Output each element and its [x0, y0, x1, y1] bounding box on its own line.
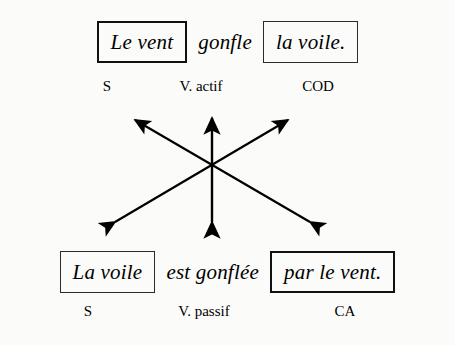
active-object-box: la voile. — [263, 21, 358, 63]
passive-label-row: S V. passif CA — [0, 303, 455, 327]
passive-subject-box: La voile — [60, 251, 156, 293]
arrow-subject-to-agent — [115, 120, 288, 222]
active-passive-diagram: Le vent gonfle la voile. S V. actif COD … — [0, 0, 455, 345]
active-label-row: S V. actif COD — [0, 78, 455, 102]
active-verb-text: gonfle — [187, 21, 263, 63]
passive-subject-label: S — [84, 303, 92, 320]
passive-agent-box: par le vent. — [270, 251, 395, 293]
arrow-cod-to-subject — [135, 120, 310, 222]
passive-agent-label: CA — [335, 303, 356, 320]
active-subject-label: S — [103, 78, 111, 95]
active-sentence-row: Le vent gonfle la voile. — [0, 20, 455, 64]
active-subject-box: Le vent — [97, 21, 188, 63]
passive-sentence-row: La voile est gonflée par le vent. — [0, 250, 455, 294]
passive-verb-text: est gonflée — [155, 251, 270, 293]
active-object-label: COD — [302, 78, 334, 95]
passive-verb-label: V. passif — [178, 303, 229, 320]
active-verb-label: V. actif — [179, 78, 222, 95]
